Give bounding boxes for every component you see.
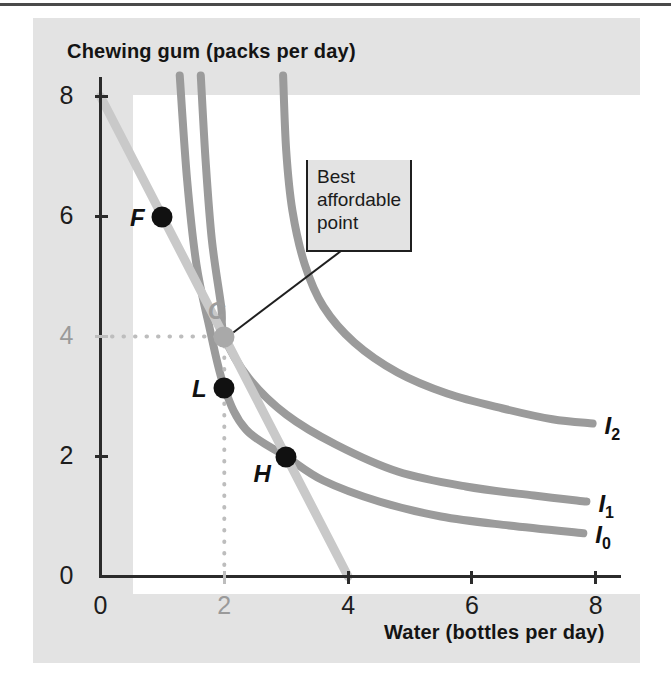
y-axis-title: Chewing gum (packs per day): [67, 40, 356, 63]
data-point-L: [214, 377, 235, 398]
y-axis-line: [99, 77, 102, 578]
x-tick-label-8: 8: [580, 591, 612, 620]
callout-line-1: Best: [317, 165, 410, 188]
callout-leader-line: [233, 251, 341, 333]
data-point-label-L: L: [192, 375, 207, 403]
data-point-label-H: H: [254, 460, 271, 488]
curve-label-I1: I1: [598, 490, 614, 522]
x-tick-6: [470, 571, 473, 584]
y-tick-2: [95, 455, 108, 458]
curve-label-letter-I2: I: [605, 412, 612, 439]
callout-line-2: affordable: [317, 188, 410, 211]
y-tick-label-2: 2: [51, 441, 83, 470]
y-tick-label-0: 0: [51, 561, 83, 590]
curve-label-index-I2: 2: [611, 425, 620, 442]
x-tick-8: [594, 571, 597, 584]
data-point-label-C: C: [208, 297, 225, 325]
curve-label-letter-I1: I: [598, 490, 605, 517]
y-tick-label-8: 8: [51, 81, 83, 110]
callout-line-3: point: [317, 211, 410, 234]
curve-label-index-I0: 0: [602, 535, 611, 552]
curve-label-index-I1: 1: [605, 503, 614, 520]
data-point-H: [276, 446, 297, 467]
x-axis-line: [99, 575, 621, 578]
best-affordable-point-callout: Best affordable point: [306, 160, 412, 252]
curve-label-I2: I2: [605, 412, 621, 444]
x-tick-label-0: 0: [85, 591, 117, 620]
data-point-F: [152, 206, 173, 227]
x-axis-title: Water (bottles per day): [384, 621, 605, 644]
y-tick-4: [95, 335, 108, 338]
x-tick-2: [223, 571, 226, 584]
x-tick-label-2: 2: [208, 591, 240, 620]
curve-label-letter-I0: I: [595, 521, 602, 548]
data-point-C: [214, 326, 235, 347]
x-tick-4: [347, 571, 350, 584]
callout-leader-line-group: [233, 251, 341, 333]
figure-canvas: 02468 02468 Chewing gum (packs per day) …: [0, 0, 671, 682]
indifference-curves-group: [180, 76, 593, 534]
y-tick-label-4: 4: [51, 321, 83, 350]
guideline-group: [101, 337, 225, 577]
curve-label-I0: I0: [595, 521, 611, 553]
x-tick-label-6: 6: [456, 591, 488, 620]
y-tick-6: [95, 215, 108, 218]
y-tick-label-6: 6: [51, 201, 83, 230]
x-tick-label-4: 4: [332, 591, 364, 620]
data-point-label-F: F: [130, 204, 145, 232]
y-tick-8: [95, 95, 108, 98]
